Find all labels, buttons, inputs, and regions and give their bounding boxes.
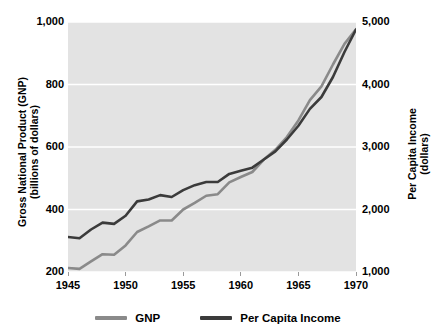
x-tick-label: 1955 bbox=[153, 280, 213, 291]
x-axis-ticks: 194519501955196019651970 bbox=[0, 0, 436, 332]
x-tick-label: 1960 bbox=[211, 280, 271, 291]
x-tick-mark bbox=[183, 272, 184, 276]
legend-swatch bbox=[200, 316, 232, 320]
x-tick-mark bbox=[240, 272, 241, 276]
legend-item[interactable]: Per Capita Income bbox=[200, 312, 340, 324]
legend-swatch bbox=[95, 316, 127, 320]
right-axis-title: Per Capita Income (dollars) bbox=[406, 54, 430, 254]
legend-label: Per Capita Income bbox=[240, 312, 340, 324]
x-tick-mark bbox=[356, 272, 357, 276]
x-tick-mark bbox=[68, 272, 69, 276]
x-tick-mark bbox=[125, 272, 126, 276]
legend-label: GNP bbox=[135, 312, 160, 324]
x-tick-mark bbox=[298, 272, 299, 276]
chart-legend: GNPPer Capita Income bbox=[0, 308, 436, 328]
chart-figure: 2004006008001,000 1,0002,0003,0004,0005,… bbox=[0, 0, 436, 332]
x-tick-label: 1970 bbox=[326, 280, 386, 291]
x-tick-label: 1945 bbox=[38, 280, 98, 291]
left-axis-title: Gross National Product (GNP) (billions o… bbox=[16, 52, 40, 252]
x-tick-label: 1950 bbox=[96, 280, 156, 291]
x-tick-label: 1965 bbox=[268, 280, 328, 291]
legend-item[interactable]: GNP bbox=[95, 312, 160, 324]
